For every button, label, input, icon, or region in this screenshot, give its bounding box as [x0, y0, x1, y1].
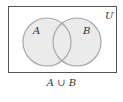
set-b-label: B: [82, 25, 90, 36]
universe-label: U: [105, 10, 114, 21]
set-a-label: A: [32, 25, 40, 36]
diagram-caption: A ∪ B: [0, 77, 123, 88]
